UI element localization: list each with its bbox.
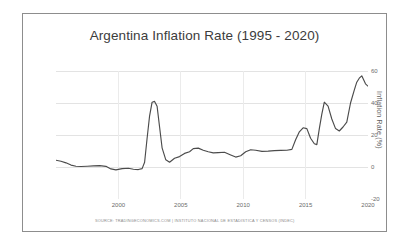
source-attribution: SOURCE: TRADINGECONOMICS.COM | INSTITUTO… <box>8 219 400 223</box>
x-tick-label-2000: 2000 <box>112 202 125 208</box>
y-axis-title: Inflation Rate (%) <box>376 91 383 181</box>
chart-title: Argentina Inflation Rate (1995 - 2020) <box>23 28 386 43</box>
gridlines-group <box>56 71 368 199</box>
x-tick-label-2005: 2005 <box>174 202 187 208</box>
y-tick-label-0: 0 <box>371 164 374 170</box>
y-tick-label-60: 60 <box>371 68 378 74</box>
line-chart-svg <box>56 71 368 199</box>
x-tick-label-2010: 2010 <box>237 202 250 208</box>
x-tick-label-2015: 2015 <box>299 202 312 208</box>
inflation-rate-line <box>56 76 368 170</box>
screenshot-root: Argentina Inflation Rate (1995 - 2020) 6… <box>0 0 409 245</box>
chart-image-frame: Argentina Inflation Rate (1995 - 2020) 6… <box>22 13 387 232</box>
plot-area <box>56 71 368 199</box>
x-tick-label-2020: 2020 <box>361 202 374 208</box>
